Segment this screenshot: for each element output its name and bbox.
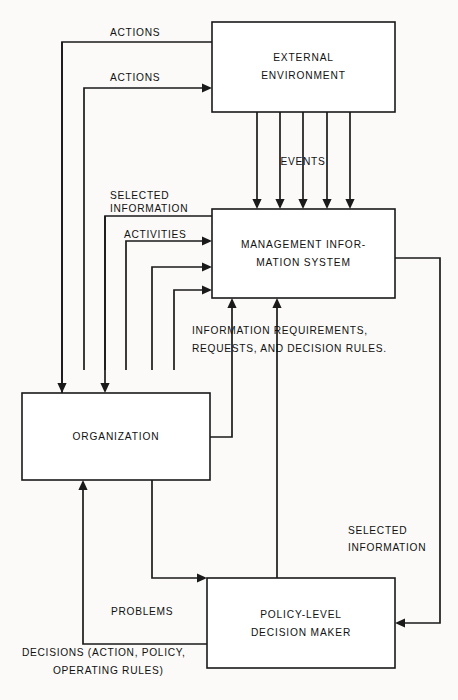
arrow-mis-into-policy <box>395 618 405 627</box>
external-environment-box[interactable] <box>212 22 395 112</box>
edge-label-selected-info-4: INFORMATION <box>348 542 426 553</box>
arrow-activities-into-mis <box>202 236 212 245</box>
external-environment-label-line2: ENVIRONMENT <box>261 70 346 81</box>
edge-label-activities: ACTIVITIES <box>124 229 186 240</box>
flow-mis-to-policy-right <box>395 258 440 623</box>
flow-org-to-mis-1 <box>152 267 208 370</box>
arrow-events-5 <box>345 199 354 209</box>
edge-label-actions-top: ACTIONS <box>110 27 160 38</box>
arrow-org-to-mis-2 <box>202 285 212 294</box>
management-information-system-box[interactable] <box>212 209 395 298</box>
arrow-policy-into-mis <box>272 298 281 308</box>
flow-decisions-flow <box>83 484 207 644</box>
arrow-env-to-org-1 <box>57 383 66 393</box>
arrow-events-1 <box>252 199 261 209</box>
mis-label-line2: MATION SYSTEM <box>256 257 351 268</box>
node-external-environment[interactable]: EXTERNAL ENVIRONMENT <box>212 22 395 112</box>
diagram-canvas: EXTERNAL ENVIRONMENT MANAGEMENT INFOR- M… <box>0 0 458 700</box>
edge-label-problems: PROBLEMS <box>111 606 173 617</box>
edge-label-info-req-1: INFORMATION REQUIREMENTS, <box>192 325 368 336</box>
edge-label-decisions-1: DECISIONS (ACTION, POLICY, <box>22 647 186 658</box>
arrow-events-2 <box>275 199 284 209</box>
mis-label-line1: MANAGEMENT INFOR- <box>241 239 366 250</box>
block-diagram: EXTERNAL ENVIRONMENT MANAGEMENT INFOR- M… <box>0 0 458 700</box>
edge-label-info-req-2: REQUESTS, AND DECISION RULES. <box>192 343 387 354</box>
arrow-org-right-into-mis <box>227 298 236 308</box>
edge-label-selected-info-2: INFORMATION <box>110 203 188 214</box>
node-organization[interactable]: ORGANIZATION <box>22 393 210 480</box>
arrow-actions-second-into-env <box>202 83 212 92</box>
node-policy-level-decision-maker[interactable]: POLICY-LEVEL DECISION MAKER <box>207 578 395 668</box>
flow-problems-flow <box>152 480 203 578</box>
arrow-env-to-org-2 <box>100 383 109 393</box>
policy-level-decision-maker-box[interactable] <box>207 578 395 668</box>
organization-label-line1: ORGANIZATION <box>73 431 160 442</box>
edge-label-events: EVENTS <box>281 156 326 167</box>
external-environment-label-line1: EXTERNAL <box>273 52 334 63</box>
edge-label-selected-info-3: SELECTED <box>348 525 407 536</box>
edge-label-decisions-2: OPERATING RULES) <box>53 665 164 676</box>
arrow-problems-into-policy <box>197 573 207 582</box>
arrow-org-to-mis-1 <box>202 262 212 271</box>
edge-label-selected-info-1: SELECTED <box>110 190 169 201</box>
policy-label-line2: DECISION MAKER <box>251 627 351 638</box>
arrow-events-4 <box>322 199 331 209</box>
arrow-decisions-into-org <box>78 480 87 490</box>
node-management-information-system[interactable]: MANAGEMENT INFOR- MATION SYSTEM <box>212 209 395 298</box>
edge-label-actions-second: ACTIONS <box>110 72 160 83</box>
arrow-events-3 <box>298 199 307 209</box>
policy-label-line1: POLICY-LEVEL <box>260 609 342 620</box>
